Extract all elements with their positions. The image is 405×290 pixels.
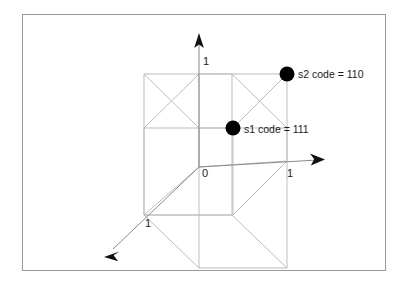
cube-edge-diag-bottom-left <box>144 215 199 268</box>
point-s1-marker <box>226 121 241 136</box>
horizontal-axis-line <box>199 160 317 167</box>
depth-axis-arrow <box>104 252 120 262</box>
axis-arrowheads <box>104 33 325 261</box>
point-s1-label: s1 code = 111 <box>244 124 309 135</box>
cube-edge-diag-bottom-right <box>232 215 287 268</box>
cube-diagram <box>0 0 405 290</box>
vertical-axis-tick-label: 1 <box>203 56 209 67</box>
origin-tick-label: 0 <box>202 168 208 179</box>
horizontal-axis-tick-label: 1 <box>287 168 293 179</box>
point-s2-marker <box>280 67 295 82</box>
depth-axis-line <box>113 167 199 249</box>
bottom-face-right-diag <box>233 161 287 215</box>
depth-axis-tick-label: 1 <box>145 218 151 229</box>
figure-root: 1 0 1 1 s2 code = 110 s1 code = 111 <box>0 0 405 290</box>
point-s2-label: s2 code = 110 <box>298 69 363 80</box>
cube-wireframe <box>144 74 287 268</box>
horizontal-axis-arrow <box>310 154 325 166</box>
